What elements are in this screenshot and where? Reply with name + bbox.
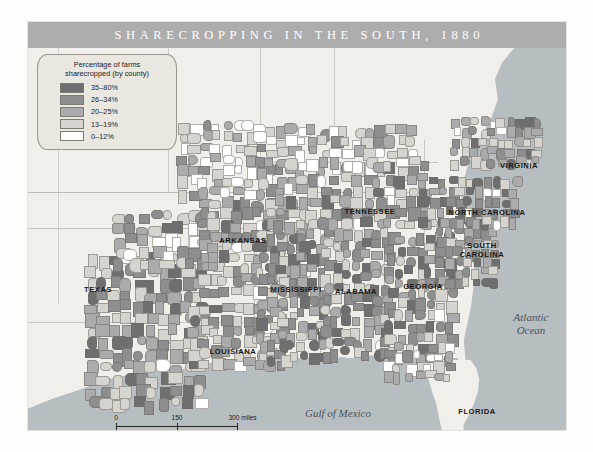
map-title-band: SHARECROPPING IN THE SOUTH, 1880 [28,22,566,48]
county-polygon [148,226,163,237]
county-polygon [310,198,322,207]
county-polygon [146,325,156,337]
county-polygon [446,363,456,371]
county-polygon [504,149,515,158]
county-polygon [233,326,242,336]
county-polygon [309,146,317,155]
county-polygon [296,220,306,229]
legend-swatch [60,131,84,141]
scale-tick-label: 0 [114,414,118,421]
county-polygon [415,310,426,320]
county-polygon [252,207,261,218]
legend-swatch [60,95,84,105]
county-polygon [413,350,421,359]
county-polygon [456,219,464,229]
state-label-south-carolina: SOUTHCAROLINA [460,242,504,260]
county-polygon [443,374,451,382]
county-polygon [244,179,253,188]
county-polygon [300,351,308,361]
county-polygon [308,329,318,340]
county-polygon [284,158,298,171]
county-polygon [396,158,409,167]
county-polygon [435,257,444,269]
county-polygon [220,187,231,199]
county-polygon [361,351,369,361]
county-polygon [454,187,465,196]
county-polygon [198,360,209,369]
county-polygon [99,398,113,410]
county-polygon [151,210,164,220]
county-polygon [328,218,338,231]
county-polygon [233,133,242,142]
county-polygon [296,252,305,261]
county-polygon [195,398,210,409]
county-polygon [450,147,458,156]
county-polygon [306,124,315,135]
legend-title-line2: sharecropped (by county) [44,69,170,78]
county-polygon [198,274,211,285]
county-polygon [168,372,183,384]
county-polygon [284,183,294,195]
legend-entry: 35–80% [60,83,170,93]
county-polygon [445,258,455,270]
county-polygon [178,190,187,204]
county-polygon [120,398,130,410]
county-polygon [319,157,328,168]
county-polygon [177,175,188,189]
county-polygon [405,310,413,322]
state-label-georgia: GEORGIA [403,283,443,292]
county-polygon [108,300,121,312]
county-polygon [297,308,305,317]
county-polygon [418,217,428,229]
county-polygon [185,258,194,270]
county-polygon [170,349,183,365]
county-polygon [427,300,435,310]
county-polygon [462,277,469,287]
county-polygon [296,342,305,352]
county-polygon [275,194,285,206]
county-polygon [159,260,174,269]
county-polygon [383,135,395,149]
state-label-alabama: ALABAMA [335,288,377,297]
county-polygon [87,336,97,350]
county-polygon [387,254,395,267]
water-label-gulf-of-mexico: Gulf of Mexico [305,407,371,420]
county-polygon [284,222,295,236]
county-polygon [187,327,199,338]
county-polygon [460,156,470,166]
county-polygon [320,325,332,338]
county-polygon [243,357,256,366]
county-polygon [424,243,435,252]
county-polygon [84,266,96,279]
county-polygon [146,387,156,399]
legend-entry-label: 35–80% [91,83,118,92]
county-polygon [135,313,148,323]
county-polygon [259,252,270,263]
county-polygon [409,156,421,165]
legend-entry-label: 20–25% [91,107,118,116]
county-polygon [306,159,319,173]
county-polygon [393,176,405,189]
county-polygon [170,386,182,396]
county-polygon [486,159,496,169]
county-polygon [473,228,481,238]
county-polygon [168,323,178,335]
county-polygon [286,340,294,351]
county-polygon [420,161,430,170]
county-polygon [531,128,543,136]
county-polygon [308,240,316,249]
county-polygon [317,135,327,145]
county-polygon [113,258,123,272]
county-polygon [290,352,298,362]
county-polygon [405,373,413,382]
county-polygon [230,223,241,234]
state-label-texas: TEXAS [84,286,112,295]
county-polygon [454,127,461,136]
county-polygon [340,346,351,355]
county-polygon [112,223,123,234]
county-polygon [360,249,369,259]
county-polygon [137,234,148,246]
county-polygon [264,158,273,168]
scale-bar-rule [116,423,238,430]
county-polygon [297,137,306,146]
